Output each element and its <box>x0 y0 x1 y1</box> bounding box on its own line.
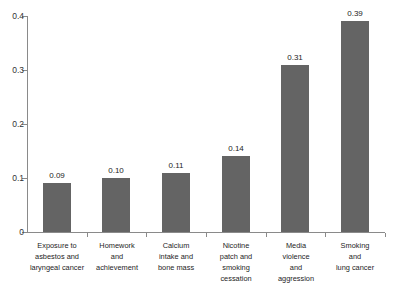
y-axis-tick-label: 0.3 <box>12 66 24 75</box>
x-axis-tick <box>87 233 88 237</box>
bar <box>102 178 130 232</box>
bar-value-label: 0.10 <box>96 167 136 175</box>
y-axis-line <box>27 16 28 233</box>
x-axis-label-line: Exposure to <box>25 240 89 251</box>
bar <box>162 173 190 232</box>
x-axis-tick <box>146 233 147 237</box>
x-axis-label-line: Homework <box>85 240 149 251</box>
bar <box>222 156 250 232</box>
x-axis-category-label: Smokingandlung cancer <box>323 240 387 273</box>
bar-value-label: 0.31 <box>275 54 315 62</box>
x-axis-category-label: Nicotinepatch andsmokingcessation <box>204 240 268 284</box>
x-axis-label-line: achievement <box>85 262 149 273</box>
x-axis-category-label: Homeworkandachievement <box>85 240 149 273</box>
x-axis-label-line: lung cancer <box>323 262 387 273</box>
x-axis-label-line: aggression <box>264 273 328 284</box>
x-axis-label-line: bone mass <box>144 262 208 273</box>
x-axis-label-line: Media <box>264 240 328 251</box>
bar-value-label: 0.11 <box>156 162 196 170</box>
x-axis-tick <box>206 233 207 237</box>
x-axis-category-label: Exposure toasbestos andlaryngeal cancer <box>25 240 89 273</box>
x-axis-category-label: Mediaviolenceandaggression <box>264 240 328 284</box>
x-axis-label-line: Calcium <box>144 240 208 251</box>
y-axis-tick-label: 0.2 <box>12 120 24 129</box>
x-axis-label-line: smoking <box>204 262 268 273</box>
bar-value-label: 0.09 <box>37 172 77 180</box>
x-axis-label-line: and <box>323 251 387 262</box>
x-axis-label-line: and <box>85 251 149 262</box>
x-axis-tick <box>325 233 326 237</box>
bar <box>341 21 369 232</box>
x-axis-tick <box>385 233 386 237</box>
x-axis-tick <box>266 233 267 237</box>
y-axis-tick-label: 0 <box>19 228 24 237</box>
x-axis-label-line: asbestos and <box>25 251 89 262</box>
bar <box>281 65 309 232</box>
bar-value-label: 0.14 <box>216 145 256 153</box>
x-axis-label-line: violence <box>264 251 328 262</box>
x-axis-label-line: and <box>264 262 328 273</box>
x-axis-label-line: Nicotine <box>204 240 268 251</box>
x-axis-label-line: cessation <box>204 273 268 284</box>
x-axis-category-label: Calciumintake andbone mass <box>144 240 208 273</box>
y-axis-tick-label: 0.1 <box>12 174 24 183</box>
x-axis-label-line: laryngeal cancer <box>25 262 89 273</box>
bar-value-label: 0.39 <box>335 10 375 18</box>
bar <box>43 183 71 232</box>
y-axis-tick-label: 0.4 <box>12 12 24 21</box>
bar-chart: 00.10.20.30.4 0.090.100.110.140.310.39 E… <box>0 0 396 288</box>
x-axis-label-line: patch and <box>204 251 268 262</box>
x-axis-label-line: intake and <box>144 251 208 262</box>
x-axis-label-line: Smoking <box>323 240 387 251</box>
